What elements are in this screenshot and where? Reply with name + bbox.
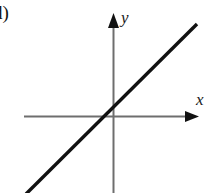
- plotted-line-group: [26, 24, 197, 193]
- x-axis-group: [24, 111, 199, 122]
- x-axis-label: x: [196, 91, 204, 108]
- plotted-line-y-equals-x: [26, 24, 197, 193]
- x-axis-arrow-icon: [185, 111, 199, 122]
- y-axis-arrow-icon: [108, 13, 119, 28]
- figure-canvas: d) y x: [0, 0, 204, 193]
- coordinate-plane-graphic: [0, 0, 204, 193]
- y-axis-label: y: [121, 9, 129, 26]
